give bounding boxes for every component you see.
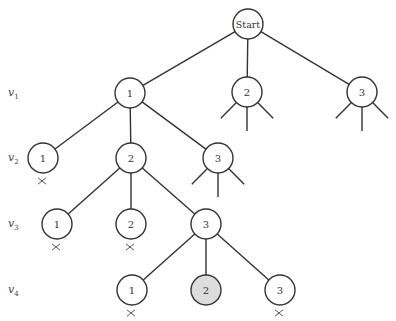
tree-edge [68,168,120,214]
level-label-v2: v2 [8,151,19,166]
branch-stub [373,103,389,119]
branch-stub [336,103,352,119]
tree-node-start: Start [233,9,263,39]
tree-node-v3_1: 1 [42,209,72,250]
tree-node-v1_1: 1 [115,78,145,108]
tree-node-v3_3: 3 [191,209,221,239]
tree-edge [247,39,248,77]
tree-edge [142,168,194,214]
pruned-cross-icon [38,178,46,184]
node-label: 1 [127,88,133,99]
tree-edges [55,32,349,280]
pruned-cross-icon [126,244,134,250]
tree-edge [130,108,131,143]
node-label: 2 [244,87,250,98]
tree-node-v2_1: 1 [28,143,58,184]
node-label: 2 [203,285,209,296]
tree-node-v2_3: 3 [203,143,233,173]
tree-edge [217,234,269,280]
tree-edge [261,32,349,85]
tree-edge [142,102,206,149]
tree-node-v4_1: 1 [117,275,147,316]
branch-stub [221,103,237,119]
tree-node-v4_2: 2 [191,275,221,305]
branch-stub [229,169,245,185]
branch-stub [192,169,208,185]
tree-edge [143,234,195,280]
pruned-cross-icon [275,310,283,316]
tree-edge [143,32,235,86]
search-tree-diagram: Start123123123123 v1v2v3v4 [0,0,396,321]
level-label-v1: v1 [8,86,19,101]
pruned-cross-icon [127,310,135,316]
tree-node-v1_2: 2 [232,77,262,107]
node-label: 1 [40,153,46,164]
node-label: 2 [128,153,134,164]
level-label-v3: v3 [8,217,19,232]
tree-node-v1_3: 3 [347,77,377,107]
node-label: 3 [277,285,283,296]
node-label: 1 [54,219,60,230]
level-label-v4: v4 [8,283,19,298]
pruned-cross-icon [52,244,60,250]
tree-edge [55,102,118,149]
node-label: 3 [359,87,365,98]
tree-node-v4_3: 3 [265,275,295,316]
node-label: 2 [128,219,134,230]
level-labels: v1v2v3v4 [8,86,19,298]
branch-stub [258,103,274,119]
node-label: 1 [129,285,135,296]
tree-nodes: Start123123123123 [28,9,377,316]
tree-canvas: Start123123123123 v1v2v3v4 [0,0,396,321]
node-label: 3 [203,219,209,230]
tree-node-v3_2: 2 [116,209,146,250]
node-label: 3 [215,153,221,164]
tree-node-v2_2: 2 [116,143,146,173]
node-label: Start [236,19,261,30]
